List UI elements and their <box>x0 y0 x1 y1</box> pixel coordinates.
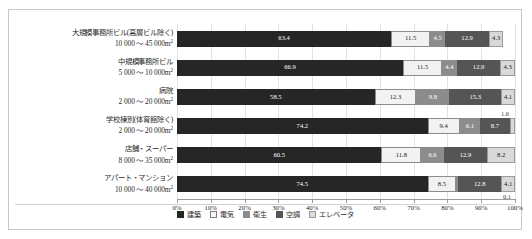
bar-segment-value: 11.8 <box>396 152 407 159</box>
bar-segment-value: 12.8 <box>474 181 486 188</box>
bar-segment-value: 12.3 <box>390 94 402 101</box>
bar-segment-value: 8.2 <box>497 152 505 159</box>
bar-segment-value: 6.1 <box>466 123 474 130</box>
bar-segment-elevator: 4.1 <box>501 176 515 192</box>
bar-segment-elevator: 4.1 <box>501 89 515 105</box>
bar-segment-denki: 12.3 <box>375 89 417 105</box>
x-axis-tick <box>346 199 347 203</box>
legend-label: 建築 <box>187 209 201 219</box>
bar-segment-denki: 11.5 <box>391 31 430 47</box>
bar-segment-kucho: 12.9 <box>445 31 489 47</box>
category-label-line2: 2 000 ～ 20 000m2 <box>119 95 173 107</box>
bar-segment-value: 4.1 <box>504 94 512 101</box>
legend-item-3[interactable]: 空調 <box>276 209 300 219</box>
bar-segment-callout: 1.6 <box>501 110 509 117</box>
legend-label: 衛生 <box>253 209 267 219</box>
grid-line <box>211 24 212 199</box>
bar-segment-eisei: 4.4 <box>442 60 457 76</box>
legend-swatch-icon <box>276 211 283 218</box>
bar-segment-value: 4.4 <box>445 64 453 71</box>
bar-segment-kenchiku: 60.5 <box>177 147 381 163</box>
grid-line <box>245 24 246 199</box>
grid-line <box>380 24 381 199</box>
category-label-line1: 大規模事務所ビル(高層ビル除く) <box>72 28 173 37</box>
category-label-line2: 10 000 ～ 45 000m2 <box>72 37 173 49</box>
bar-segment-value: 63.4 <box>278 35 290 42</box>
category-label: アパート・マンション10 000 ～ 40 000m2 <box>104 173 173 194</box>
legend-label: 電気 <box>220 209 234 219</box>
x-axis-tick <box>515 199 516 203</box>
bar-segment-value: 74.5 <box>297 181 309 188</box>
bar-row: 60.511.86.612.98.2 <box>177 147 515 163</box>
category-label-line1: 店舗・スーパー <box>125 144 173 153</box>
bar-segment-value: 11.5 <box>417 64 428 71</box>
bar-segment-value: 9.8 <box>429 94 437 101</box>
legend-item-1[interactable]: 電気 <box>210 209 234 219</box>
x-axis-tick <box>312 199 313 203</box>
bar-segment-eisei: 9.8 <box>416 89 449 105</box>
category-label-line1: アパート・マンション <box>104 173 173 182</box>
x-axis-tick <box>447 199 448 203</box>
unit-superscript: 2 <box>171 155 174 161</box>
unit-superscript: 2 <box>171 125 174 131</box>
category-label-line2: 2 000 ～ 20 000m2 <box>106 124 173 136</box>
bar-segment-value: 58.5 <box>270 94 282 101</box>
bar-segment-kucho: 8.7 <box>480 118 509 134</box>
grid-line <box>346 24 347 199</box>
plot-area: 63.411.54.512.94.366.911.54.412.94.358.5… <box>177 24 515 199</box>
bar-segment-value: 4.3 <box>504 64 512 71</box>
category-axis: 大規模事務所ビル(高層ビル除く)10 000 ～ 45 000m2中規模事務所ビ… <box>19 24 175 199</box>
bar-segment-elevator: 4.3 <box>500 60 515 76</box>
x-axis-tick <box>177 199 178 203</box>
bar-segment-value: 8.5 <box>438 181 446 188</box>
category-label-line1: 学校棟別(体育館除く) <box>106 115 173 124</box>
legend-label: 空調 <box>286 209 300 219</box>
grid-line <box>177 24 178 199</box>
legend-item-4[interactable]: エレベータ <box>309 209 354 219</box>
bar-segment-denki: 8.5 <box>428 176 457 192</box>
bar-segment-elevator: 4.3 <box>489 31 504 47</box>
legend-item-0[interactable]: 建築 <box>177 209 201 219</box>
bar-segment-denki: 9.4 <box>428 118 460 134</box>
bar-segment-denki: 11.5 <box>403 60 442 76</box>
unit-superscript: 2 <box>171 38 174 44</box>
bar-segment-value: 74.2 <box>297 123 309 130</box>
bar-segment-kenchiku: 58.5 <box>177 89 375 105</box>
bar-segment-value: 60.5 <box>273 152 285 159</box>
x-axis-tick <box>278 199 279 203</box>
bar-segment-kenchiku: 66.9 <box>177 60 403 76</box>
bar-segment-value: 4.1 <box>504 181 512 188</box>
grid-line <box>312 24 313 199</box>
legend-item-2[interactable]: 衛生 <box>243 209 267 219</box>
bar-segment-value: 66.9 <box>284 64 296 71</box>
bar-segment-eisei: 6.6 <box>421 147 443 163</box>
chart-frame: 大規模事務所ビル(高層ビル除く)10 000 ～ 45 000m2中規模事務所ビ… <box>8 9 522 230</box>
bar-segment-kucho: 12.9 <box>457 60 501 76</box>
bar-row: 74.58.512.84.1 <box>177 176 515 192</box>
grid-line <box>481 24 482 199</box>
category-label-line1: 病院 <box>159 86 173 95</box>
legend-swatch-icon <box>177 211 184 218</box>
legend-swatch-icon <box>210 211 217 218</box>
bar-row: 66.911.54.412.94.3 <box>177 60 515 76</box>
category-label: 中規模事務所ビル5 000 ～ 10 000m2 <box>118 57 173 78</box>
category-label-line1: 中規模事務所ビル <box>118 57 173 66</box>
unit-superscript: 2 <box>171 184 174 190</box>
bar-segment-kucho: 15.3 <box>449 89 501 105</box>
bar-row: 58.512.39.815.34.1 <box>177 89 515 105</box>
x-axis-tick <box>211 199 212 203</box>
bar-segment-eisei: 4.5 <box>430 31 445 47</box>
grid-line <box>414 24 415 199</box>
chart-legend: 建築電気衛生空調エレベータ <box>9 209 521 219</box>
bar-segment-value: 9.4 <box>440 123 448 130</box>
category-label: 大規模事務所ビル(高層ビル除く)10 000 ～ 45 000m2 <box>72 28 173 49</box>
legend-label: エレベータ <box>319 209 354 219</box>
category-label-line2: 8 000 ～ 35 000m2 <box>119 154 173 166</box>
legend-swatch-icon <box>243 211 250 218</box>
bar-segment-value: 12.9 <box>461 35 473 42</box>
x-axis-tick <box>481 199 482 203</box>
bar-row: 63.411.54.512.94.3 <box>177 31 515 47</box>
bar-segment-kucho: 12.9 <box>444 147 488 163</box>
bar-segment-eisei: 6.1 <box>460 118 481 134</box>
bar-segment-value: 15.3 <box>469 94 481 101</box>
